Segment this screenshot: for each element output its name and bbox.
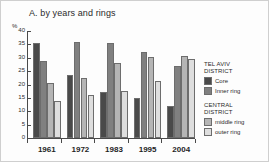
x-axis-tick-mark xyxy=(161,139,162,143)
y-axis-tick: 20 xyxy=(5,85,31,86)
bar xyxy=(33,43,40,138)
bar xyxy=(181,56,188,138)
legend-heading-line: DISTRICT xyxy=(204,109,268,116)
bar xyxy=(88,95,95,138)
y-axis-tick-mark xyxy=(28,98,31,99)
y-axis-tick-mark xyxy=(28,85,31,86)
x-axis-line xyxy=(27,138,195,139)
y-axis-tick: 40 xyxy=(5,31,31,32)
legend-heading-line: TEL AVIV xyxy=(204,61,268,68)
bar xyxy=(100,92,107,138)
chart-legend: TEL AVIVDISTRICTCoreInner ringCENTRALDIS… xyxy=(204,61,268,143)
bar xyxy=(74,42,81,138)
y-axis-tick-label: 5 xyxy=(22,121,25,127)
chart-title: A. by years and rings xyxy=(29,8,116,18)
y-axis-tick-mark xyxy=(28,111,31,112)
bar xyxy=(167,106,174,138)
y-axis-tick-label: 25 xyxy=(18,67,25,73)
y-axis-tick: 35 xyxy=(5,44,31,45)
y-axis-tick: 5 xyxy=(5,125,31,126)
legend-block: TEL AVIVDISTRICTCoreInner ring xyxy=(204,61,268,95)
legend-label: outer ring xyxy=(215,129,240,135)
legend-swatch-icon xyxy=(204,87,212,95)
bar-group xyxy=(134,31,162,138)
y-axis-tick-label: 0 xyxy=(22,134,25,140)
y-axis-tick-label: 10 xyxy=(18,107,25,113)
y-axis-tick-label: 30 xyxy=(18,54,25,60)
x-axis-tick-mark xyxy=(94,139,95,143)
chart-figure: A. by years and rings % 4035302520151050… xyxy=(0,0,269,162)
x-axis-tick-mark xyxy=(195,139,196,143)
plot-area: 4035302520151050 xyxy=(27,31,195,139)
y-axis-tick-mark xyxy=(28,138,31,139)
y-axis-unit-label: % xyxy=(12,23,17,29)
y-axis-tick: 15 xyxy=(5,98,31,99)
legend-label: middle ring xyxy=(215,119,244,125)
y-axis-tick-mark xyxy=(28,125,31,126)
legend-heading-line: CENTRAL xyxy=(204,102,268,109)
legend-label: Inner ring xyxy=(215,88,240,94)
y-axis-tick-label: 15 xyxy=(18,94,25,100)
legend-heading-line: DISTRICT xyxy=(204,68,268,75)
legend-swatch-icon xyxy=(204,118,212,126)
bar xyxy=(174,66,181,138)
bar xyxy=(155,81,162,138)
bar-group xyxy=(100,31,128,138)
y-axis-tick: 25 xyxy=(5,71,31,72)
bar xyxy=(40,61,47,138)
bar-group xyxy=(67,31,95,138)
bar xyxy=(148,57,155,138)
bar xyxy=(81,78,88,138)
legend-block: CENTRALDISTRICTmiddle ringouter ring xyxy=(204,102,268,136)
x-axis-tick-mark xyxy=(128,139,129,143)
bar xyxy=(134,98,141,138)
y-axis-tick-mark xyxy=(28,44,31,45)
bar xyxy=(67,75,74,138)
y-axis-tick-mark xyxy=(28,71,31,72)
bar xyxy=(107,43,114,138)
bar xyxy=(121,91,128,138)
legend-label: Core xyxy=(215,78,228,84)
bar xyxy=(188,59,195,138)
legend-swatch-icon xyxy=(204,77,212,85)
bar xyxy=(114,63,121,138)
bar xyxy=(141,52,148,138)
legend-entry-core[interactable]: Core xyxy=(204,77,268,85)
legend-entry-middle-ring[interactable]: middle ring xyxy=(204,118,268,126)
legend-entry-inner-ring[interactable]: Inner ring xyxy=(204,87,268,95)
y-axis-tick-label: 40 xyxy=(18,27,25,33)
y-axis-tick: 30 xyxy=(5,58,31,59)
y-axis-tick-label: 35 xyxy=(18,40,25,46)
bar xyxy=(47,83,54,138)
x-axis-tick-mark xyxy=(61,139,62,143)
x-axis-label-2004: 2004 xyxy=(161,145,201,154)
bar xyxy=(54,101,61,138)
bar-group xyxy=(167,31,195,138)
bar-group xyxy=(33,31,61,138)
y-axis-tick-label: 20 xyxy=(18,81,25,87)
y-axis-tick: 10 xyxy=(5,111,31,112)
x-axis-tick-mark xyxy=(27,139,28,143)
y-axis-tick-mark xyxy=(28,58,31,59)
legend-swatch-icon xyxy=(204,128,212,136)
legend-entry-outer-ring[interactable]: outer ring xyxy=(204,128,268,136)
y-axis-tick-mark xyxy=(28,31,31,32)
